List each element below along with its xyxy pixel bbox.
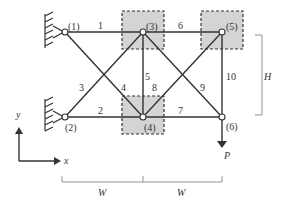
- width-dimension-bracket: [62, 176, 222, 182]
- member-label-7: 7: [178, 105, 183, 116]
- member-label-8: 8: [152, 82, 157, 93]
- coordinate-axes: [15, 127, 61, 165]
- member-label-3: 3: [79, 82, 84, 93]
- node-label-2: (2): [65, 122, 77, 134]
- width-label-1: W: [98, 187, 108, 198]
- node-label-1: (1): [68, 21, 80, 33]
- member-label-4: 4: [121, 82, 126, 93]
- y-axis-label: y: [15, 109, 21, 120]
- member-label-2: 2: [98, 105, 103, 116]
- node-4: [140, 114, 146, 120]
- member-label-5: 5: [145, 71, 150, 82]
- node-2: [62, 114, 68, 120]
- width-label-2: W: [177, 187, 187, 198]
- node-6: [219, 114, 225, 120]
- node-label-6: (6): [226, 121, 238, 133]
- truss-diagram: (1) (2) (3) (4) (5) (6) 1 2 3 4 5 6 7 8 …: [0, 0, 284, 204]
- x-axis-label: x: [63, 155, 69, 166]
- member-label-6: 6: [178, 20, 183, 31]
- node-label-3: (3): [146, 21, 158, 33]
- node-label-5: (5): [226, 21, 238, 33]
- member-label-1: 1: [98, 20, 103, 31]
- load-label: P: [223, 150, 230, 161]
- node-label-4: (4): [144, 122, 156, 134]
- node-5: [219, 29, 225, 35]
- member-label-9: 9: [200, 82, 205, 93]
- height-label: H: [263, 71, 272, 82]
- fixed-support-node-2: [45, 97, 64, 131]
- height-dimension-bracket: [255, 35, 262, 115]
- member-label-10: 10: [226, 71, 236, 82]
- fixed-support-node-1: [45, 12, 64, 48]
